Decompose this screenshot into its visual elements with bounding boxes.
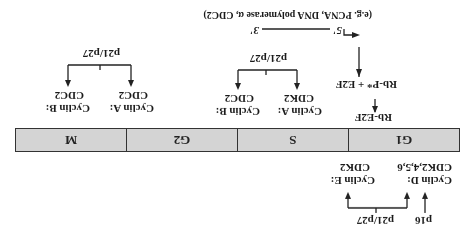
label-rb-e2f: Rb-E2F xyxy=(355,112,392,124)
label-p21-p27-s: p21/p27 xyxy=(250,53,287,65)
label-cyclin-d: Cyclin D: xyxy=(407,175,452,187)
label-target-genes: (e.g. PCNA, DNA polymerase α, CDC2) xyxy=(203,9,372,21)
label-cdk2-s: CDK2 xyxy=(284,93,314,105)
connector-lines xyxy=(0,0,472,249)
label-cdc2-m-b: CDC2 xyxy=(55,90,84,102)
label-cyclin-e: Cyclin E: xyxy=(331,175,375,187)
label-cdc2-m-a: CDC2 xyxy=(119,90,148,102)
cell-cycle-diagram: G1 S G2 M xyxy=(0,0,472,249)
label-p21-p27-g1: p21/p27 xyxy=(357,215,394,227)
label-cyclin-b-s: Cyclin B: xyxy=(216,106,260,118)
label-cyclin-a-s: Cyclin A: xyxy=(278,106,322,118)
label-5-prime: 5' xyxy=(333,25,342,37)
label-p21-p27-m: p21/p27 xyxy=(83,48,120,60)
label-cyclin-b-m: Cyclin B: xyxy=(46,103,90,115)
label-3-prime: 3' xyxy=(250,25,259,37)
label-cyclin-a-m: Cyclin A: xyxy=(110,103,154,115)
label-rb-p-e2f: Rb-P* + E2F xyxy=(336,79,397,91)
label-p16: p16 xyxy=(415,215,432,227)
label-cdk2456: CDK2,4,5,6 xyxy=(397,162,452,174)
label-cdk2-e: CDK2 xyxy=(340,162,370,174)
label-cdc2-s: CDC2 xyxy=(225,93,254,105)
